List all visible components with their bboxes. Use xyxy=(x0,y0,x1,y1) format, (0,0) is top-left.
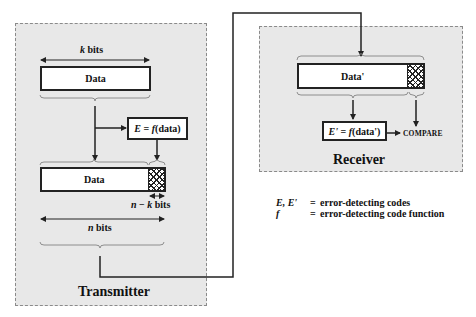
n-bits-label: n bits xyxy=(88,222,112,233)
received-code-hatch xyxy=(407,65,423,87)
transmitter-title: Transmitter xyxy=(78,284,150,300)
legend-eq: = xyxy=(310,208,320,219)
error-code-hatch xyxy=(148,169,164,190)
data-label: Data xyxy=(84,174,105,185)
legend: E, E' = error-detecting codes f = error-… xyxy=(276,197,444,219)
error-code-recompute-box: E' = f(data') xyxy=(322,121,387,141)
data-label: Data xyxy=(85,73,106,84)
ecode-expression: E' = f(data') xyxy=(329,126,381,137)
ecode-eq: = xyxy=(141,123,152,134)
ecode-eq: = xyxy=(338,126,349,137)
error-code-generator-box: E = f(data) xyxy=(127,117,188,140)
legend-text: error-detecting code function xyxy=(320,208,444,219)
received-data-label: Data' xyxy=(341,71,364,82)
ecode-arg: (data') xyxy=(352,126,380,137)
ecode-expression: E = f(data) xyxy=(134,123,180,134)
minus: − xyxy=(137,199,148,210)
bits-unit: bits xyxy=(94,222,112,233)
receiver-title: Receiver xyxy=(333,152,385,168)
data-block-original: Data xyxy=(40,66,151,91)
received-data-block: Data' xyxy=(297,63,425,89)
compare-label: COMPARE xyxy=(403,129,443,138)
legend-eq: = xyxy=(310,197,320,208)
n-minus-k-bits-label: n − k bits xyxy=(131,199,170,210)
legend-item: E, E' = error-detecting codes xyxy=(276,197,444,208)
legend-item: f = error-detecting code function xyxy=(276,208,444,219)
k-bits-label: k bits xyxy=(80,44,103,55)
legend-symbol: f xyxy=(276,208,310,219)
legend-symbol: E, E' xyxy=(276,197,310,208)
legend-text: error-detecting codes xyxy=(320,197,410,208)
receiver-panel xyxy=(259,26,463,172)
data-block-with-code: Data xyxy=(40,167,166,192)
ecode-var: E' xyxy=(329,126,338,137)
ecode-arg: (data) xyxy=(155,123,181,134)
bits-unit: bits xyxy=(152,199,170,210)
k-unit: bits xyxy=(85,44,103,55)
